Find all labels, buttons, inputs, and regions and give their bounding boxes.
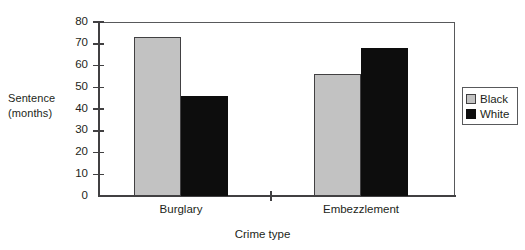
y-tick-label-20: 20 (62, 146, 88, 158)
legend: Black White (462, 87, 518, 125)
y-tick-label-40: 40 (62, 103, 88, 115)
y-tick-80 (93, 21, 104, 23)
x-axis-midpoint-tick (270, 191, 272, 201)
y-tick-30 (93, 130, 104, 132)
legend-item-black[interactable]: Black (466, 91, 514, 106)
legend-item-white[interactable]: White (466, 106, 514, 121)
bar-burglary-black[interactable] (134, 37, 181, 196)
y-tick-10 (93, 174, 104, 176)
legend-swatch-black-icon (466, 94, 476, 104)
bar-chart-figure: Sentence (months) 80 70 60 50 40 30 20 1… (0, 0, 525, 250)
y-tick-40 (93, 108, 104, 110)
bar-embezzlement-white[interactable] (361, 48, 408, 196)
y-tick-label-50: 50 (62, 81, 88, 93)
category-label-burglary: Burglary (131, 203, 231, 216)
y-tick-label-70: 70 (62, 37, 88, 49)
legend-label-black: Black (480, 93, 508, 105)
bar-embezzlement-black[interactable] (314, 74, 361, 196)
y-tick-20 (93, 152, 104, 154)
x-axis-title: Crime type (0, 228, 525, 240)
y-tick-label-0: 0 (62, 190, 88, 202)
y-tick-50 (93, 87, 104, 89)
legend-swatch-white-icon (466, 109, 476, 119)
legend-label-white: White (480, 108, 509, 120)
y-tick-label-80: 80 (62, 16, 88, 28)
y-tick-label-60: 60 (62, 59, 88, 71)
bar-burglary-white[interactable] (181, 96, 228, 196)
y-tick-label-10: 10 (62, 168, 88, 180)
category-label-embezzlement: Embezzlement (301, 203, 421, 216)
y-tick-label-30: 30 (62, 124, 88, 136)
y-tick-60 (93, 65, 104, 67)
y-tick-70 (93, 43, 104, 45)
